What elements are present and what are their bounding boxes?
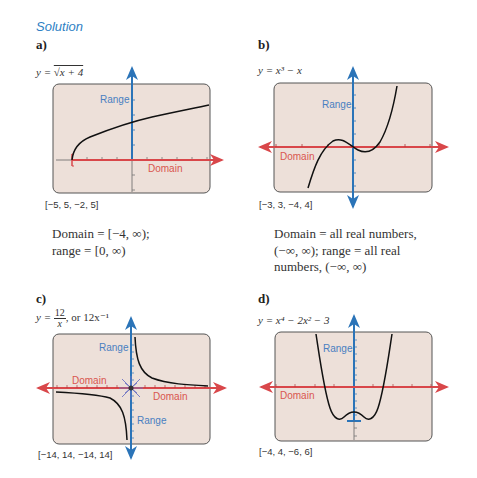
graphs-canvas: Range Domain Range Domain: [0, 0, 477, 478]
range-label: Range: [323, 343, 353, 354]
graph-b: Range Domain: [260, 68, 447, 207]
range-label: Range: [322, 99, 352, 110]
domain-label-right: Domain: [153, 391, 187, 402]
range-label-top: Range: [99, 342, 129, 353]
domain-label: Domain: [148, 163, 182, 174]
graph-d: Range Domain: [261, 316, 447, 441]
domain-label: Domain: [280, 151, 314, 162]
graph-a: Range Domain: [53, 68, 222, 193]
domain-label-left: Domain: [72, 375, 106, 386]
range-label: Range: [100, 94, 130, 105]
domain-label: Domain: [280, 390, 314, 401]
range-label-bottom: Range: [137, 415, 167, 426]
graph-c: Range Domain Domain Range: [38, 318, 225, 458]
